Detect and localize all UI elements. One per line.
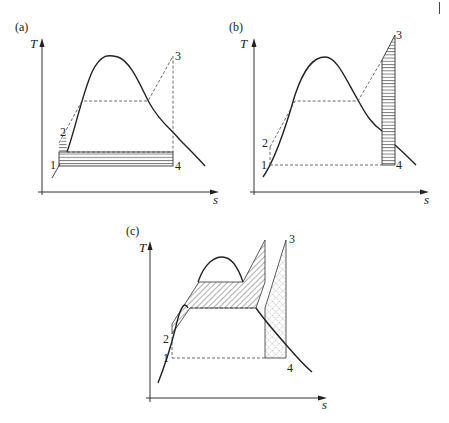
panel-a-y-arrow-icon: [40, 38, 45, 47]
panel-c-point-3: 3: [289, 232, 295, 246]
panel-a-heat-rejection-hatch: [59, 152, 173, 166]
panel-b-point-1: 1: [261, 158, 267, 172]
panel-b-y-axis-label: T: [240, 36, 248, 51]
panel-c: (c) T s 2 1 3 4: [126, 224, 327, 412]
panel-a-point-4: 4: [175, 159, 181, 173]
panel-c-diagonal-hatch: [172, 240, 265, 334]
ts-diagrams-figure: (a) T s 2 1 3 4 (b) T s: [0, 0, 449, 423]
panel-a-point-3: 3: [175, 49, 181, 63]
panel-b-y-arrow-icon: [252, 38, 257, 47]
panel-b-superheat-hatch: [382, 35, 395, 165]
panel-b-label: (b): [229, 20, 243, 34]
panel-c-point-4: 4: [287, 361, 293, 375]
panel-c-y-axis-label: T: [139, 240, 147, 255]
panel-b: (b) T s 2 1 3 4: [229, 20, 429, 207]
panel-a-y-axis-label: T: [30, 36, 38, 51]
panel-c-label: (c): [126, 224, 139, 238]
panel-c-point-2: 2: [163, 332, 169, 346]
panel-b-saturation-dome: [263, 57, 382, 177]
panel-b-cycle-path: [270, 60, 382, 147]
panel-c-point-1: 1: [163, 351, 169, 365]
panel-a-point-1: 1: [50, 158, 56, 172]
panel-b-point-4: 4: [396, 158, 402, 172]
panel-a: (a) T s 2 1 3 4: [15, 20, 219, 207]
panel-a-cycle-path: [59, 56, 173, 152]
panel-c-x-axis-label: s: [322, 397, 327, 412]
panel-a-saturation-dome: [67, 56, 205, 166]
panel-a-point-2: 2: [60, 125, 66, 139]
panel-a-x-axis-label: s: [213, 192, 218, 207]
panel-b-x-axis-label: s: [424, 192, 429, 207]
panel-c-saturation-dome: [198, 257, 243, 282]
panel-b-point-3: 3: [396, 28, 402, 42]
panel-b-point-2: 2: [262, 136, 268, 150]
panel-c-y-arrow-icon: [148, 241, 153, 250]
panel-a-label: (a): [15, 20, 28, 34]
